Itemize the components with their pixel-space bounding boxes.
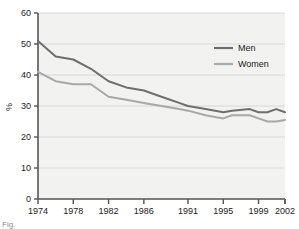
x-tick-label: 1995 bbox=[213, 206, 233, 216]
x-tick-label: 2002 bbox=[275, 206, 295, 216]
y-tick-label: 40 bbox=[21, 70, 31, 80]
y-tick-label: 10 bbox=[21, 163, 31, 173]
x-tick-label: 1978 bbox=[63, 206, 83, 216]
x-tick-label: 1982 bbox=[99, 206, 119, 216]
chart-figure: 0102030405060 19741978198219861991199519… bbox=[0, 0, 299, 229]
y-tick-label: 20 bbox=[21, 132, 31, 142]
x-tick-label: 1986 bbox=[134, 206, 154, 216]
x-tick-label: 1999 bbox=[249, 206, 269, 216]
y-tick-label: 30 bbox=[21, 101, 31, 111]
x-axis-ticks: 19741978198219861991199519992002 bbox=[28, 199, 295, 216]
y-tick-label: 60 bbox=[21, 8, 31, 18]
y-axis-title: % bbox=[4, 103, 14, 111]
y-tick-label: 50 bbox=[21, 39, 31, 49]
x-tick-label: 1991 bbox=[178, 206, 198, 216]
y-tick-label: 0 bbox=[26, 194, 31, 204]
figure-caption: Fig. bbox=[2, 220, 15, 229]
legend-label-men: Men bbox=[238, 43, 256, 53]
legend-label-women: Women bbox=[238, 59, 269, 69]
x-tick-label: 1974 bbox=[28, 206, 48, 216]
y-axis-ticks: 0102030405060 bbox=[21, 8, 38, 204]
line-chart: 0102030405060 19741978198219861991199519… bbox=[0, 0, 299, 229]
